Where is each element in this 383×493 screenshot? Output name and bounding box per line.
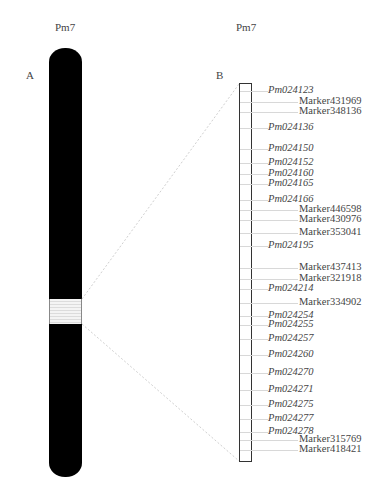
marker-tick <box>240 289 268 290</box>
marker-tick <box>240 419 268 420</box>
gene-label: Pm024260 <box>268 349 314 359</box>
marker-tick <box>240 149 268 150</box>
marker-tick <box>240 339 268 340</box>
gene-label: Pm024136 <box>268 122 314 132</box>
marker-tick <box>240 450 298 451</box>
gene-label: Pm024150 <box>268 143 314 153</box>
marker-tick <box>240 91 268 92</box>
gene-label: Pm024275 <box>268 399 314 409</box>
gene-label: Pm024195 <box>268 240 314 250</box>
marker-tick <box>240 405 268 406</box>
marker-tick <box>240 210 298 211</box>
marker-tick <box>240 220 298 221</box>
gene-label: Pm024277 <box>268 413 314 423</box>
marker-tick <box>240 390 268 391</box>
marker-label: Marker418421 <box>299 444 361 454</box>
gene-label: Pm024257 <box>268 333 314 343</box>
marker-tick <box>240 355 268 356</box>
marker-label: Marker334902 <box>299 297 361 307</box>
marker-tick <box>240 200 268 201</box>
connector-lines <box>0 0 383 493</box>
marker-tick <box>240 163 268 164</box>
marker-tick <box>240 279 298 280</box>
gene-label: Pm024271 <box>268 384 314 394</box>
marker-tick <box>240 373 268 374</box>
gene-label: Pm024270 <box>268 367 314 377</box>
marker-tick <box>240 440 298 441</box>
marker-label: Marker437413 <box>299 262 361 272</box>
marker-tick <box>240 128 268 129</box>
gene-label: Pm024123 <box>268 85 314 95</box>
marker-label: Marker348136 <box>299 106 361 116</box>
gene-label: Pm024152 <box>268 157 314 167</box>
marker-tick <box>240 316 268 317</box>
gene-label: Pm024255 <box>268 319 314 329</box>
marker-tick <box>240 303 298 304</box>
marker-tick <box>240 184 268 185</box>
marker-tick <box>240 102 298 103</box>
marker-tick <box>240 246 268 247</box>
marker-tick <box>240 325 268 326</box>
gene-label: Pm024214 <box>268 283 314 293</box>
gene-label: Pm024165 <box>268 178 314 188</box>
marker-label: Marker430976 <box>299 214 361 224</box>
marker-tick <box>240 233 298 234</box>
marker-tick <box>240 174 268 175</box>
marker-label: Marker353041 <box>299 227 361 237</box>
marker-tick <box>240 112 298 113</box>
marker-tick <box>240 432 268 433</box>
marker-tick <box>240 268 298 269</box>
